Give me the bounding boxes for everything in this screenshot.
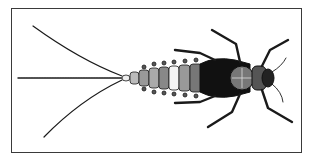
tail-filament-upper	[33, 26, 122, 76]
figure-caption: ...	[30, 153, 53, 160]
leg-front-lower	[262, 90, 292, 122]
leg-mid-lower	[208, 94, 240, 127]
leg-mid-upper	[212, 30, 240, 62]
insect-illustration	[0, 0, 309, 160]
tail-filament-lower	[44, 80, 122, 137]
thorax	[200, 59, 254, 98]
abdomen	[122, 58, 202, 98]
antenna-upper	[272, 58, 286, 72]
antenna-lower	[272, 84, 283, 102]
leg-front-upper	[262, 40, 288, 66]
head	[252, 66, 274, 90]
